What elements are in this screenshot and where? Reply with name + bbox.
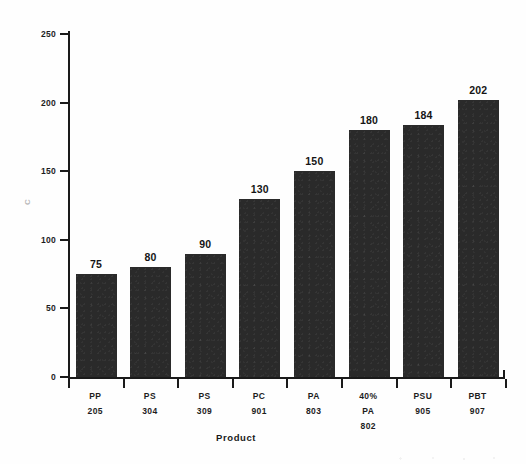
category-label-line: PS	[119, 389, 182, 404]
bar	[458, 100, 499, 377]
category-label-line: 907	[446, 404, 509, 419]
y-axis-tick-label-text: 50	[20, 303, 56, 313]
y-axis-tick	[60, 239, 69, 241]
y-axis-tick-label: 150	[20, 166, 56, 176]
category-label: PP205	[64, 389, 127, 419]
scan-artifact	[390, 455, 520, 462]
y-axis-tick-label: 0	[20, 372, 56, 382]
y-axis-tick-label-text: 100	[20, 235, 56, 245]
bar	[76, 274, 117, 377]
category-label: PBT907	[446, 389, 509, 419]
category-label-line: 40%	[337, 389, 400, 404]
category-label-line: PA	[337, 404, 400, 419]
x-axis-tick	[123, 379, 125, 388]
y-axis-tick-label-text: 250	[20, 29, 56, 39]
bar-value-label: 130	[229, 183, 290, 195]
category-label-line: PA	[282, 389, 345, 404]
bar-value-label: 184	[393, 109, 454, 121]
y-axis-tick-label: 50	[20, 303, 56, 313]
category-label-line: 905	[392, 404, 455, 419]
bar-value-label: 202	[448, 84, 509, 96]
category-label: PA803	[282, 389, 345, 419]
category-label-line: 802	[337, 419, 400, 434]
bar	[349, 130, 390, 377]
x-axis-tick	[68, 379, 70, 388]
category-label-line: PP	[64, 389, 127, 404]
y-axis-tick	[60, 307, 69, 309]
category-label: PS304	[119, 389, 182, 419]
y-axis-tick-label-text: 200	[20, 98, 56, 108]
category-label: PC901	[228, 389, 291, 419]
bar-chart: 050100150200250 758090130150180184202 PP…	[0, 0, 526, 464]
bar	[185, 254, 226, 377]
y-axis-tick-label: 250	[20, 29, 56, 39]
category-label: PS309	[173, 389, 236, 419]
bar-value-label: 150	[284, 155, 345, 167]
x-axis-tick	[505, 379, 507, 388]
y-axis-tick	[60, 376, 69, 378]
y-axis-title: C	[16, 192, 40, 212]
x-axis-tick	[341, 379, 343, 388]
y-axis-tick-label: 200	[20, 98, 56, 108]
x-axis-tick	[396, 379, 398, 388]
y-axis-tick	[60, 102, 69, 104]
category-label-line: 901	[228, 404, 291, 419]
category-label: PSU905	[392, 389, 455, 419]
category-label-line: PSU	[392, 389, 455, 404]
category-label-line: 205	[64, 404, 127, 419]
x-axis-tick	[286, 379, 288, 388]
category-label-line: 803	[282, 404, 345, 419]
bar-value-label: 90	[175, 238, 236, 250]
y-axis-tick-label: 100	[20, 235, 56, 245]
category-label-line: PC	[228, 389, 291, 404]
x-axis-tick	[177, 379, 179, 388]
category-label-line: PS	[173, 389, 236, 404]
y-axis-tick	[60, 170, 69, 172]
x-axis-tick	[450, 379, 452, 388]
x-axis-title: Product	[216, 432, 256, 443]
bar	[294, 171, 335, 377]
y-axis-line	[68, 34, 70, 379]
bar-value-label: 75	[66, 258, 127, 270]
y-axis-tick-label-text: 0	[20, 372, 56, 382]
bar-value-label: 80	[120, 251, 181, 263]
category-label: 40%PA802	[337, 389, 400, 434]
x-axis-right-cap	[503, 370, 505, 377]
bar-value-label: 180	[339, 114, 400, 126]
bar	[130, 267, 171, 377]
y-axis-tick	[60, 33, 69, 35]
x-axis-tick	[232, 379, 234, 388]
y-axis-tick-label-text: 150	[20, 166, 56, 176]
category-label-line: PBT	[446, 389, 509, 404]
bar	[239, 199, 280, 377]
bar	[403, 125, 444, 377]
category-label-line: 309	[173, 404, 236, 419]
category-label-line: 304	[119, 404, 182, 419]
